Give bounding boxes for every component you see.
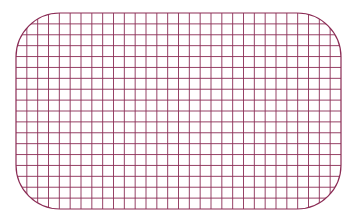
grid-figure <box>0 0 354 224</box>
grid-lines <box>16 13 341 209</box>
rounded-grid-diagram <box>0 0 354 224</box>
